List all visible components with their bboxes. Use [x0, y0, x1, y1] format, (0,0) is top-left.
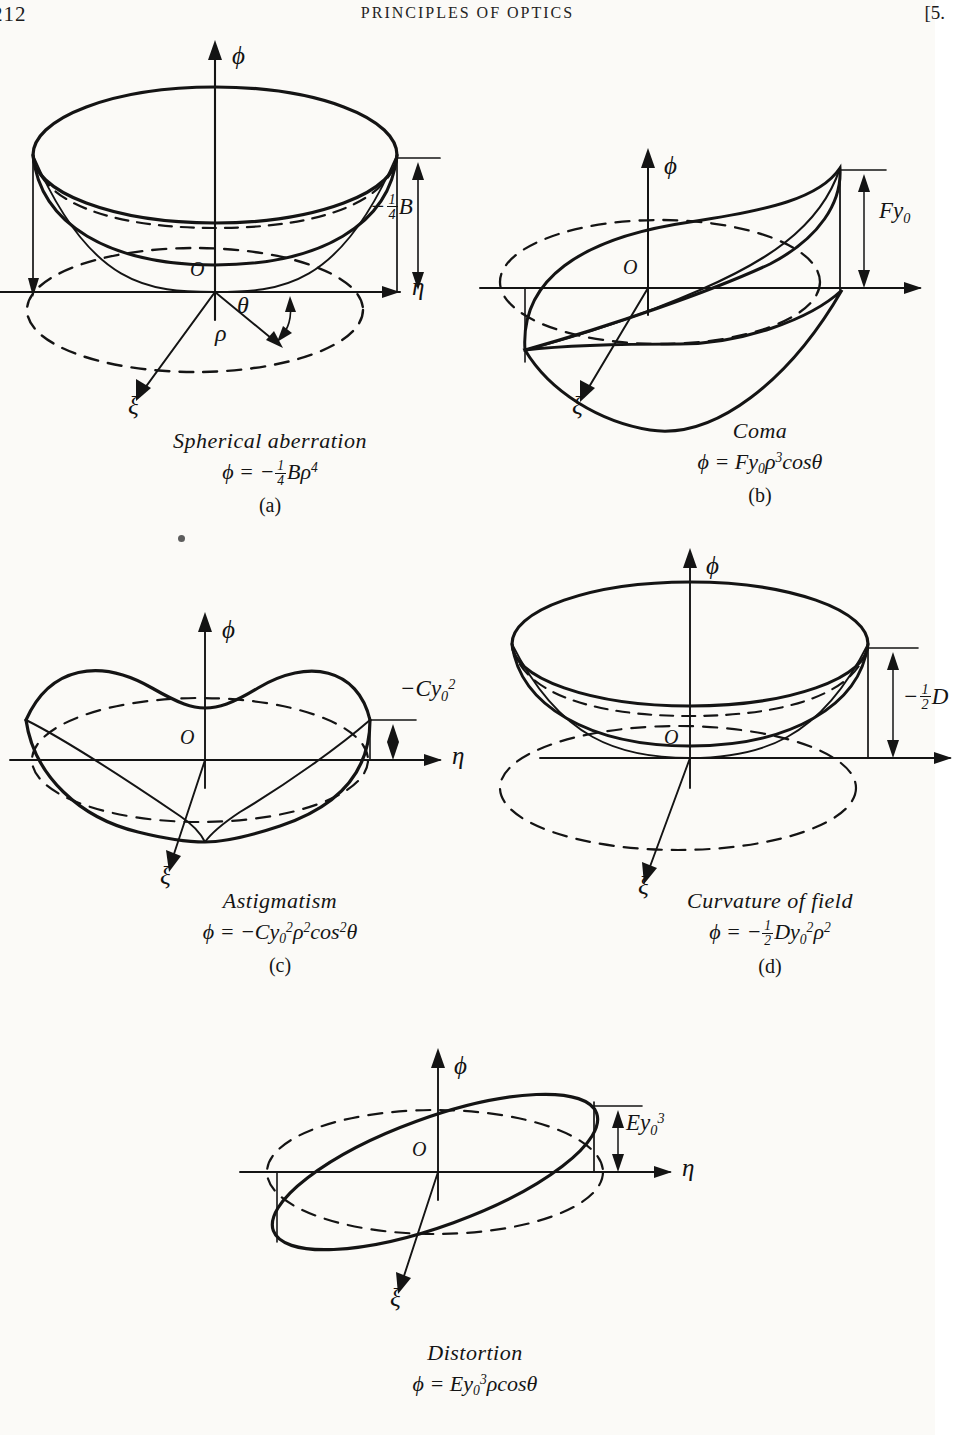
xi-axis-line-e: [402, 1172, 438, 1282]
phi-axis-arrowhead-b: [641, 148, 655, 168]
caption-c: Astigmatism ϕ = −Cy02ρ2cos2θ (c): [110, 888, 450, 977]
phi-axis-label-c: ϕ: [222, 616, 235, 644]
amplitude-arrow-down-b: [858, 270, 870, 288]
figure-d-curvature-of-field: ϕ ξ O −12D: [560, 540, 956, 890]
amplitude-arrow-down-c: [387, 742, 399, 760]
xi-axis-line-b: [586, 288, 648, 392]
eta-axis-arrowhead-d: [934, 752, 952, 764]
amplitude-arrow-down-d: [887, 740, 899, 758]
caption-d-letter: (d): [605, 955, 935, 978]
caption-b-name: Coma: [600, 418, 920, 444]
eta-axis-arrowhead-c: [424, 754, 442, 766]
origin-label-c: O: [180, 726, 194, 749]
amplitude-label-a: −14B: [370, 192, 413, 222]
caption-c-name: Astigmatism: [110, 888, 450, 914]
amplitude-label-c: −Cy02: [400, 676, 455, 705]
phi-axis-label-a: ϕ: [232, 42, 245, 70]
eta-axis-label-e: η: [682, 1154, 694, 1182]
xi-axis-label-e: ξ: [390, 1284, 401, 1312]
figure-c-astigmatism: ϕ η ξ O −Cy02: [40, 560, 500, 890]
xi-axis-label-a: ξ: [128, 392, 139, 420]
coma-upper-lobe: [525, 168, 840, 350]
caption-b-letter: (b): [600, 484, 920, 507]
phi-axis-arrowhead-c: [198, 612, 212, 632]
caption-d-formula: ϕ = −12Dy02ρ2: [605, 919, 935, 948]
caption-a-name: Spherical aberration: [110, 428, 430, 454]
caption-d: Curvature of field ϕ = −12Dy02ρ2 (d): [605, 888, 935, 978]
xi-axis-line-c: [172, 760, 205, 860]
caption-a-letter: (a): [110, 494, 430, 517]
origin-label-d: O: [664, 726, 678, 749]
phi-axis-arrowhead-e: [431, 1048, 445, 1068]
figure-a-spherical-aberration: ϕ η ξ O θ ρ −14B: [0, 20, 470, 440]
eta-axis-label-a: η: [412, 273, 424, 301]
rho-label-a: ρ: [215, 320, 227, 347]
phi-axis-arrowhead: [208, 40, 222, 60]
theta-arc-arrow-bottom: [277, 326, 292, 342]
xi-axis-line: [142, 292, 215, 392]
amplitude-label-d: −12D: [903, 682, 948, 712]
caption-e-formula: ϕ = Ey03ρcosθ: [310, 1371, 640, 1399]
caption-b: Coma ϕ = Fy0ρ3cosθ (b): [600, 418, 920, 507]
ink-speck: [178, 535, 185, 542]
amplitude-arrow-up-d: [887, 652, 899, 670]
phi-axis-arrowhead-d: [683, 548, 697, 568]
chapter-marker: [5.: [924, 2, 945, 24]
eta-axis-label-c: η: [452, 742, 464, 770]
xi-axis-line-d: [648, 758, 690, 872]
phi-axis-label-e: ϕ: [454, 1052, 467, 1080]
origin-label-b: O: [623, 256, 637, 279]
amplitude-label-b: Fy0: [879, 198, 910, 227]
figure-e-distortion: ϕ η ξ O Ey03: [250, 1010, 720, 1320]
caption-c-formula: ϕ = −Cy02ρ2cos2θ: [110, 919, 450, 947]
amplitude-arrow-up: [412, 162, 424, 180]
xi-axis-label-c: ξ: [160, 862, 171, 890]
amplitude-arrow-up-b: [858, 174, 870, 192]
figure-b-coma: ϕ ξ O Fy0: [490, 130, 935, 450]
left-generator-arrow: [28, 278, 39, 297]
phi-axis-label-d: ϕ: [706, 552, 719, 580]
amplitude-arrow-up-c: [387, 724, 399, 742]
caption-b-formula: ϕ = Fy0ρ3cosθ: [600, 449, 920, 477]
eta-axis-arrowhead-b: [904, 282, 922, 294]
amplitude-label-e: Ey03: [626, 1110, 665, 1139]
origin-label-e: O: [412, 1138, 426, 1161]
phi-axis-label-b: ϕ: [664, 152, 677, 180]
caption-a-formula: ϕ = −14Bρ4: [110, 459, 430, 487]
caption-c-letter: (c): [110, 954, 450, 977]
caption-e: Distortion ϕ = Ey03ρcosθ: [310, 1340, 640, 1399]
origin-label-a: O: [190, 258, 204, 281]
xi-axis-label-b: ξ: [572, 392, 583, 420]
theta-label-a: θ: [237, 292, 249, 319]
caption-e-name: Distortion: [310, 1340, 640, 1366]
saddle-rim-upper: [26, 671, 370, 720]
caption-a: Spherical aberration ϕ = −14Bρ4 (a): [110, 428, 430, 517]
theta-arc-arrow-top: [285, 296, 296, 312]
eta-axis-arrowhead-e: [654, 1166, 672, 1178]
amplitude-arrow-up-e: [612, 1110, 624, 1128]
amplitude-arrow-down-e: [612, 1154, 624, 1172]
caption-d-name: Curvature of field: [605, 888, 935, 914]
